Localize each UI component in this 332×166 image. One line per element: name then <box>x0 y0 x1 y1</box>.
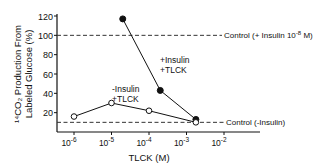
y-tick-label: 60 <box>43 70 53 80</box>
x-tick-label: 10-5 <box>99 136 115 148</box>
y-tick-label: 120 <box>38 12 53 22</box>
x-axis-label: TLCK (M) <box>128 152 169 163</box>
y-tick-label: 40 <box>43 89 53 99</box>
open-marker <box>71 114 77 120</box>
series-label: +TLCK <box>112 94 139 104</box>
series-label: +TLCK <box>160 65 187 75</box>
y-tick-label: 80 <box>43 50 53 60</box>
open-marker <box>146 108 152 114</box>
series-line <box>74 103 196 122</box>
open-marker <box>193 120 199 126</box>
filled-marker <box>157 87 163 93</box>
series-label: -Insulin <box>112 84 140 94</box>
x-tick-label: 10-6 <box>61 136 77 148</box>
reference-lines: Control (+ Insulin 10-8 M)Control (-Insu… <box>57 30 313 127</box>
x-tick-label: 10-3 <box>174 136 190 148</box>
y-axis-label-line2: Labeled Glucose (%) <box>23 30 34 119</box>
control-insulin-label: Control (+ Insulin 10-8 M) <box>224 30 313 40</box>
x-tick-label: 10-2 <box>211 136 227 148</box>
chart: ¹⁴CO₂ Production From Labeled Glucose (%… <box>0 0 332 166</box>
y-tick-label: 20 <box>43 108 53 118</box>
y-axis-label: ¹⁴CO₂ Production From Labeled Glucose (%… <box>12 25 34 123</box>
x-tick-label: 10-4 <box>136 136 152 148</box>
filled-marker <box>120 16 126 22</box>
series-labels: +Insulin+TLCK-Insulin+TLCK <box>112 55 190 104</box>
y-tick-label: 100 <box>38 31 53 41</box>
series-label: +Insulin <box>160 55 190 65</box>
y-axis-label-line1: ¹⁴CO₂ Production From <box>12 25 23 123</box>
control-no-insulin-label: Control (-Insulin) <box>226 118 285 127</box>
